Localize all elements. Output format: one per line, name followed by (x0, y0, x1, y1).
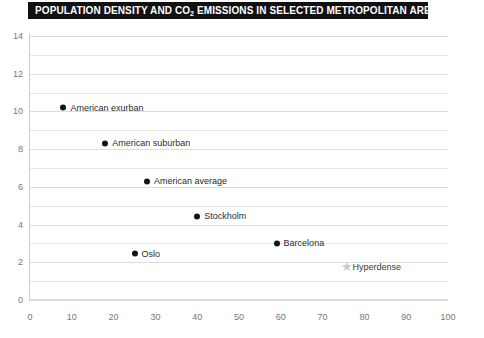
y-axis-line (29, 34, 30, 302)
title-prefix: POPULATION DENSITY AND CO (35, 5, 190, 16)
dot-marker-icon (132, 251, 138, 257)
data-point-hyperdense[interactable]: ★Hyperdense (341, 262, 402, 273)
data-point-label: Stockholm (204, 212, 246, 221)
data-point-label: Hyperdense (353, 263, 402, 272)
x-tick-label: 80 (359, 312, 369, 322)
y-tick-label: 12 (13, 69, 23, 79)
scatter-plot: 02468101214 0102030405060708090100 Ameri… (30, 36, 448, 300)
page-title: POPULATION DENSITY AND CO2 EMISSIONS IN … (35, 6, 445, 16)
y-tick-label: 6 (18, 182, 23, 192)
data-point-american-exurban[interactable]: American exurban (60, 103, 143, 112)
gridline (30, 74, 448, 75)
x-tick-label: 10 (67, 312, 77, 322)
title-subscript: 2 (190, 10, 194, 17)
dot-marker-icon (60, 105, 66, 111)
gridline (30, 206, 448, 207)
x-tick-label: 40 (192, 312, 202, 322)
data-point-stockholm[interactable]: Stockholm (194, 212, 246, 221)
title-suffix: EMISSIONS IN SELECTED METROPOLITAN AREAS (194, 5, 445, 16)
dot-marker-icon (144, 178, 150, 184)
gridline (30, 187, 448, 188)
y-tick-label: 10 (13, 106, 23, 116)
gridline (30, 225, 448, 226)
x-tick-label: 60 (276, 312, 286, 322)
x-axis-line (30, 299, 448, 300)
data-point-label: Barcelona (284, 239, 325, 248)
gridline (30, 55, 448, 56)
gridline (30, 36, 448, 37)
y-tick-label: 4 (18, 220, 23, 230)
data-point-barcelona[interactable]: Barcelona (274, 239, 325, 248)
x-tick-label: 0 (27, 312, 32, 322)
gridline (30, 93, 448, 94)
gridline (30, 130, 448, 131)
y-tick-label: 8 (18, 144, 23, 154)
data-point-oslo[interactable]: Oslo (132, 249, 161, 258)
x-tick-label: 100 (440, 312, 455, 322)
x-tick-label: 70 (318, 312, 328, 322)
data-point-label: American suburban (112, 139, 190, 148)
chart-title-banner: POPULATION DENSITY AND CO2 EMISSIONS IN … (28, 2, 428, 19)
y-tick-label: 0 (18, 295, 23, 305)
y-tick-label: 2 (18, 257, 23, 267)
star-icon: ★ (341, 262, 352, 273)
gridline (30, 243, 448, 244)
dot-marker-icon (274, 240, 280, 246)
data-point-american-average[interactable]: American average (144, 177, 227, 186)
data-point-label: Oslo (142, 249, 161, 258)
x-tick-label: 30 (150, 312, 160, 322)
data-point-label: American average (154, 177, 227, 186)
gridline (30, 149, 448, 150)
x-tick-label: 20 (109, 312, 119, 322)
data-point-american-suburban[interactable]: American suburban (102, 139, 190, 148)
y-tick-label: 14 (13, 31, 23, 41)
data-point-label: American exurban (70, 103, 143, 112)
gridline (30, 281, 448, 282)
dot-marker-icon (194, 213, 200, 219)
x-tick-label: 50 (234, 312, 244, 322)
gridline (30, 300, 448, 301)
dot-marker-icon (102, 140, 108, 146)
x-tick-label: 90 (401, 312, 411, 322)
gridline (30, 168, 448, 169)
